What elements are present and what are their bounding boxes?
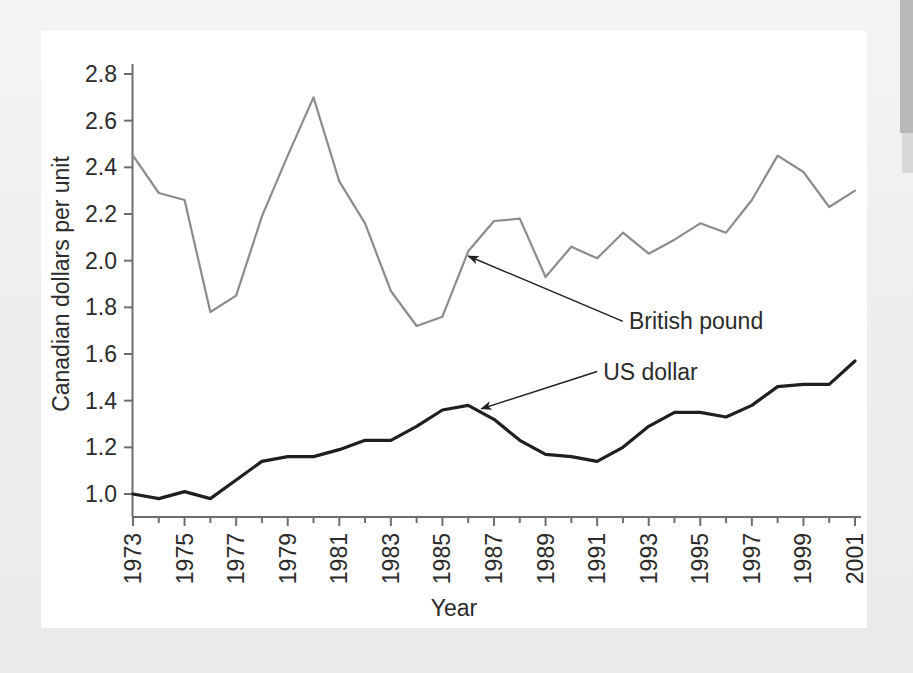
page-edge-bar-middle <box>902 133 913 173</box>
annotation-leader-line <box>481 372 597 409</box>
page-edge-bar-top <box>900 0 913 133</box>
x-axis-tick-label: 1995 <box>687 533 713 584</box>
y-axis-tick-label: 2.2 <box>85 201 117 227</box>
x-axis-tick-label: 1993 <box>636 533 662 584</box>
x-axis-tick-label: 1983 <box>378 533 404 584</box>
y-axis-tick-label: 1.8 <box>85 294 117 320</box>
x-axis-tick-label: 1999 <box>790 533 816 584</box>
chart-canvas: 2.82.62.42.22.01.81.61.41.21.01973197519… <box>41 31 867 628</box>
y-axis-title: Canadian dollars per unit <box>48 156 74 412</box>
x-axis-tick-label: 1979 <box>275 533 301 584</box>
y-axis-tick-label: 1.2 <box>85 434 117 460</box>
x-axis-tick-label: 1991 <box>584 533 610 584</box>
line-chart: 2.82.62.42.22.01.81.61.41.21.01973197519… <box>41 31 867 628</box>
x-axis-tick-label: 1973 <box>120 533 146 584</box>
y-axis-tick-label: 1.6 <box>85 341 117 367</box>
y-axis-tick-label: 2.0 <box>85 248 117 274</box>
series-line-us-dollar <box>133 361 855 499</box>
x-axis-tick-label: 1975 <box>172 533 198 584</box>
x-axis-tick-label: 1977 <box>223 533 249 584</box>
x-axis-tick-label: 1981 <box>326 533 352 584</box>
y-axis-tick-label: 1.0 <box>85 481 117 507</box>
y-axis-tick-label: 2.6 <box>85 108 117 134</box>
series-line-british-pound <box>133 97 855 326</box>
y-axis-tick-label: 2.4 <box>85 154 117 180</box>
x-axis-tick-label: 1987 <box>481 533 507 584</box>
x-axis-title: Year <box>431 595 478 621</box>
y-axis-tick-label: 2.8 <box>85 61 117 87</box>
x-axis-tick-label: 1985 <box>429 533 455 584</box>
x-axis-tick-label: 1997 <box>739 533 765 584</box>
x-axis-tick-label: 1989 <box>533 533 559 584</box>
x-axis-tick-label: 2001 <box>842 533 867 584</box>
annotation-label: US dollar <box>603 359 698 385</box>
annotation-leader-line <box>468 256 623 321</box>
annotation-label: British pound <box>629 308 763 334</box>
y-axis-tick-label: 1.4 <box>85 388 117 414</box>
